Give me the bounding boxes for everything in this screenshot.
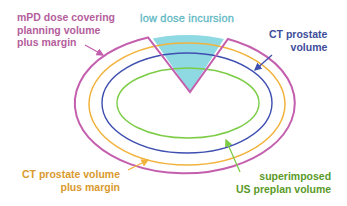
us-preplan-label: superimposed US preplan volume xyxy=(236,170,331,195)
ct-prostate-margin-label: CT prostate volume plus margin xyxy=(22,168,120,193)
ct-prostate-label: CT prostate volume xyxy=(269,28,327,53)
low-dose-label: low dose incursion xyxy=(140,12,234,25)
mpd-dose-label: mPD dose covering planning volume plus m… xyxy=(17,11,115,49)
